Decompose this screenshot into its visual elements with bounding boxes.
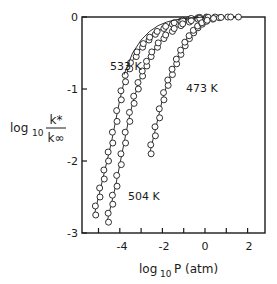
y-tick-labels: 0 -1 -2 -3 [67,11,78,240]
y-label-numerator: k* [50,113,63,127]
data-point [97,194,103,200]
data-point [105,210,111,216]
data-point [161,90,167,96]
data-point [143,58,149,64]
data-point [93,212,99,218]
plot-frame [82,17,265,233]
x-tick-neg4: -4 [117,240,128,253]
data-point [228,14,234,20]
data-point [140,41,146,47]
data-point [106,158,112,164]
data-point [135,86,141,92]
data-point [127,118,133,124]
data-point [126,109,132,115]
x-tick-2: 2 [246,240,253,253]
data-point [118,151,124,157]
data-point [152,133,158,139]
y-tick-neg3: -3 [67,227,78,240]
data-point [165,77,171,83]
data-point [157,115,163,121]
data-point [173,56,179,62]
label-504k: 504 K [128,190,160,203]
data-point [110,140,116,146]
y-label-log: log [10,121,28,135]
data-point [148,142,154,148]
label-473k: 473 K [186,82,218,95]
data-point [118,162,124,168]
data-point [118,88,124,94]
data-point [148,151,154,157]
x-axis-label: log 10 P (atm) [139,262,218,279]
data-point [122,72,128,78]
data-point [105,149,111,155]
data-point [235,14,241,20]
x-label-sub: 10 [160,269,172,279]
x-tick-labels: -4 -2 0 2 [117,240,253,253]
data-point [131,100,137,106]
data-point [171,26,177,32]
data-point [109,129,115,135]
data-point [101,167,107,173]
data-point [131,93,137,99]
y-axis-label: log 10 k* k∞ [10,113,66,145]
data-point [92,203,98,209]
chart: 0 -1 -2 -3 -4 -2 0 2 log 10 P (atm) log … [0,0,277,284]
data-point [109,192,115,198]
data-point [155,40,161,46]
data-point [163,32,169,38]
data-point [106,219,112,225]
data-point [101,176,107,182]
y-tick-neg1: -1 [67,83,78,96]
data-point [135,80,141,86]
x-tick-0: 0 [202,240,209,253]
data-point [149,49,155,55]
x-label-log: log [139,262,157,276]
data-point [123,140,129,146]
data-point [204,17,210,23]
data-point [118,97,124,103]
data-point [114,108,120,114]
data-point [110,201,116,207]
data-point [169,66,175,72]
data-point [156,106,162,112]
data-point [114,172,120,178]
data-point [154,28,160,34]
y-tick-neg2: -2 [67,155,78,168]
data-point [123,79,129,85]
data-point [218,14,224,20]
y-label-sub: 10 [32,128,44,138]
data-point [163,23,169,29]
data-point [147,34,153,40]
data-point [114,183,120,189]
data-point [122,129,128,135]
x-tick-neg2: -2 [159,240,170,253]
x-label-rest: P (atm) [174,262,218,276]
data-point [114,118,120,124]
data-series [92,14,241,225]
data-point [161,97,167,103]
axis-ticks [82,17,248,233]
y-tick-0: 0 [71,11,78,24]
data-point [211,15,217,21]
data-point [152,124,158,130]
data-point [97,185,103,191]
y-label-denominator: k∞ [48,131,65,145]
data-point [180,21,186,27]
label-533k: 533 K [110,60,142,73]
